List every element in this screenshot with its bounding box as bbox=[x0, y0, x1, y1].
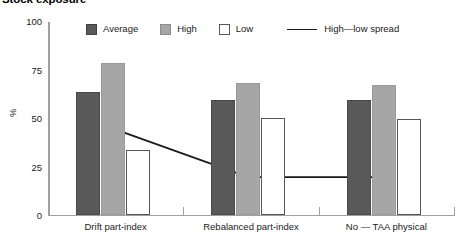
x-axis-separator-2 bbox=[319, 207, 320, 216]
x-axis-separator-1 bbox=[183, 207, 184, 216]
y-axis-tick-50: 50 bbox=[31, 114, 42, 124]
y-axis-tick-25: 25 bbox=[31, 163, 42, 173]
y-axis-line bbox=[48, 22, 50, 216]
x-axis-category-label-1: Drift part-index bbox=[85, 222, 147, 232]
page-title: Stock exposure bbox=[2, 0, 86, 5]
x-axis-category-label-2: Rebalanced part-index bbox=[203, 222, 299, 232]
bar-high-group-3 bbox=[372, 85, 396, 215]
chart-figure: Stock exposure AverageHighLowHigh—low sp… bbox=[0, 0, 462, 244]
bar-low-group-2 bbox=[261, 118, 285, 215]
x-axis-separator-3 bbox=[454, 207, 455, 216]
y-axis-tick-100: 100 bbox=[26, 17, 42, 27]
bar-low-group-3 bbox=[397, 119, 421, 214]
x-axis-line bbox=[48, 215, 454, 217]
bar-avg-group-3 bbox=[347, 100, 371, 214]
y-axis-label: % bbox=[8, 109, 18, 117]
bar-avg-group-1 bbox=[76, 92, 100, 214]
y-axis-tick-75: 75 bbox=[31, 66, 42, 76]
x-axis-category-label-3: No — TAA physical bbox=[346, 222, 427, 232]
bar-high-group-1 bbox=[101, 63, 125, 214]
bar-high-group-2 bbox=[236, 83, 260, 215]
plot-area: 0255075100 bbox=[48, 22, 454, 216]
y-axis-tick-0: 0 bbox=[37, 211, 42, 221]
bar-low-group-1 bbox=[126, 150, 150, 214]
bar-avg-group-2 bbox=[211, 100, 235, 214]
